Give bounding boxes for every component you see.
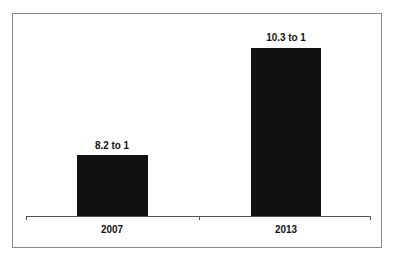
bar-2013 [251, 48, 321, 216]
category-label-2013: 2013 [241, 223, 331, 235]
x-axis-tick [199, 216, 200, 220]
x-axis-tick [370, 216, 371, 220]
value-label-2013: 10.3 to 1 [241, 31, 331, 43]
chart-frame [12, 13, 382, 248]
value-label-2007: 8.2 to 1 [67, 139, 157, 151]
bar-2007 [77, 155, 148, 216]
category-label-2007: 2007 [67, 223, 157, 235]
x-axis-tick [26, 216, 27, 220]
